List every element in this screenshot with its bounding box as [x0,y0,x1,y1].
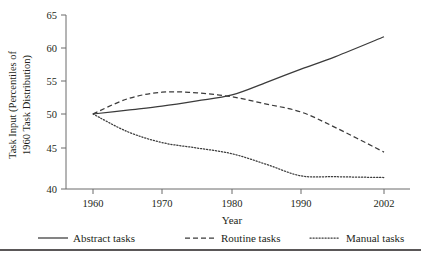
x-axis-title: Year [222,214,243,226]
x-tick-label-1970: 1970 [152,198,173,209]
y-tick-label-55: 55 [47,76,58,87]
y-tick-label-65: 65 [47,10,58,21]
y-tick-label-45: 45 [47,143,58,154]
y-tick-label-50: 50 [47,109,58,120]
chart-figure: Task Input (Percentiles of 1960 Task Dis… [0,0,421,256]
y-axis-title-line1: Task Input (Percentiles of [7,50,19,159]
legend-label-routine: Routine tasks [221,232,281,244]
x-tick-label-1990: 1990 [291,198,312,209]
y-axis-title-line2: 1960 Task Distribution) [21,55,33,155]
x-tick-label-1980: 1980 [222,198,243,209]
x-tick-label-2002: 2002 [374,198,395,209]
chart-background [0,0,421,256]
chart-legend: Abstract tasks Routine tasks Manual task… [38,232,404,244]
task-input-line-chart: Task Input (Percentiles of 1960 Task Dis… [0,0,421,256]
y-tick-label-60: 60 [47,43,58,54]
legend-label-abstract: Abstract tasks [73,232,135,244]
y-tick-label-40: 40 [47,184,58,195]
x-tick-label-1960: 1960 [83,198,104,209]
legend-label-manual: Manual tasks [346,232,404,244]
